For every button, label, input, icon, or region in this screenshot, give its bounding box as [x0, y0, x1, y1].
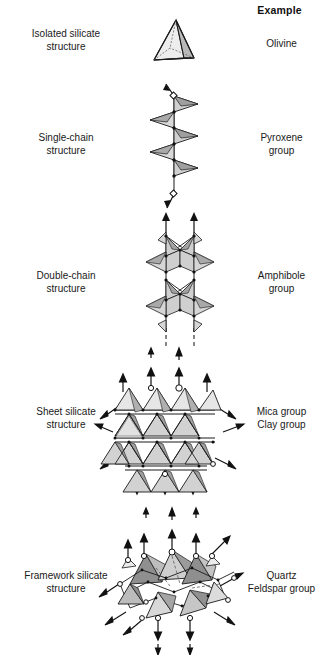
example-label-line2: Feldspar group: [234, 583, 329, 596]
structure-label-isolated: Isolated silicate structure: [0, 28, 132, 53]
example-label-line1: Pyroxene: [234, 132, 329, 145]
structure-label-line2: structure: [0, 283, 132, 296]
structure-label-line2: structure: [0, 145, 132, 158]
structure-label-line1: Single-chain: [0, 132, 132, 145]
row-framework-silicate: Framework silicate structure: [0, 508, 329, 655]
diagram-sheet-silicate: [95, 348, 247, 506]
structure-label-double-chain: Double-chain structure: [0, 270, 132, 295]
example-label-line1: Quartz: [234, 570, 329, 583]
row-sheet-silicate: Sheet silicate structure: [0, 348, 329, 508]
row-single-chain: Single-chain structure: [0, 90, 329, 208]
row-double-chain: Double-chain structure: [0, 208, 329, 348]
structure-label-line2: structure: [0, 41, 132, 54]
example-label-line2: Clay group: [234, 419, 329, 432]
example-label-line1: Amphibole: [234, 270, 329, 283]
structure-label-single-chain: Single-chain structure: [0, 132, 132, 157]
example-label-line1: Olivine: [234, 38, 329, 51]
diagram-single-chain: [148, 82, 214, 210]
example-label-amphibole: Amphibole group: [234, 270, 329, 295]
diagram-isolated-tetrahedron: [146, 14, 206, 66]
diagram-double-chain: [136, 210, 222, 350]
example-label-mica-clay: Mica group Clay group: [234, 406, 329, 431]
silicate-structures-figure: Example Isolated silicate structure Oliv…: [0, 0, 329, 655]
diagram-framework-silicate: [96, 508, 248, 655]
example-label-olivine: Olivine: [234, 38, 329, 51]
example-label-line2: group: [234, 145, 329, 158]
example-label-quartz-feldspar: Quartz Feldspar group: [234, 570, 329, 595]
row-isolated-silicate: Isolated silicate structure Olivine: [0, 0, 329, 90]
example-label-pyroxene: Pyroxene group: [234, 132, 329, 157]
example-label-line2: group: [234, 283, 329, 296]
example-label-line1: Mica group: [234, 406, 329, 419]
structure-label-line1: Isolated silicate: [0, 28, 132, 41]
structure-label-line1: Double-chain: [0, 270, 132, 283]
